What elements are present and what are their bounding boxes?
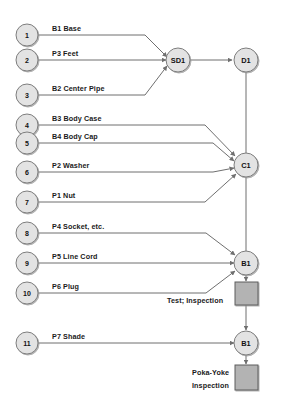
part-nodes: 1 2 3 4 5 6 7 xyxy=(16,24,38,354)
part-node-number: 6 xyxy=(25,169,29,176)
inspection-box-poka-yoke[interactable] xyxy=(235,365,258,390)
diagram-canvas: 1 2 3 4 5 6 7 xyxy=(0,0,281,403)
part-node-11[interactable]: 11 xyxy=(16,332,38,354)
part-node-1[interactable]: 1 xyxy=(16,24,38,46)
part-label-10: P6 Plug xyxy=(52,282,79,291)
inspection-box-test[interactable] xyxy=(235,282,258,305)
operation-node-b1-lower[interactable]: B1 xyxy=(234,331,258,355)
part-label-6: P2 Washer xyxy=(52,161,89,170)
connector-part5-to-c1 xyxy=(38,143,234,161)
part-label-3: B2 Center Pipe xyxy=(52,84,105,93)
inspection-label-poka-yoke-line2: Inspection xyxy=(192,381,229,390)
operation-node-label: D1 xyxy=(241,56,250,65)
part-node-number: 1 xyxy=(25,32,29,39)
part-node-number: 8 xyxy=(25,230,29,237)
operation-node-label: C1 xyxy=(241,161,250,170)
operation-node-label: SD1 xyxy=(171,56,185,65)
part-node-number: 10 xyxy=(23,290,31,297)
part-label-9: P5 Line Cord xyxy=(52,252,98,261)
part-label-1: B1 Base xyxy=(52,24,81,33)
part-node-8[interactable]: 8 xyxy=(16,222,38,244)
part-node-number: 7 xyxy=(25,199,29,206)
part-label-2: P3 Feet xyxy=(52,49,79,58)
part-node-number: 11 xyxy=(23,340,31,347)
inspection-label-test: Test; Inspection xyxy=(167,296,223,305)
operation-node-label: B1 xyxy=(241,259,250,268)
part-node-7[interactable]: 7 xyxy=(16,191,38,213)
part-node-3[interactable]: 3 xyxy=(16,84,38,106)
part-node-number: 9 xyxy=(25,260,29,267)
part-node-number: 4 xyxy=(25,122,29,129)
part-node-number: 2 xyxy=(25,57,29,64)
part-label-7: P1 Nut xyxy=(52,191,76,200)
assembly-flow-diagram: 1 2 3 4 5 6 7 xyxy=(0,0,281,403)
operation-node-sd1[interactable]: SD1 xyxy=(166,48,190,72)
part-node-9[interactable]: 9 xyxy=(16,252,38,274)
operation-node-label: B1 xyxy=(241,339,250,348)
part-label-5: B4 Body Cap xyxy=(52,132,98,141)
part-node-5[interactable]: 5 xyxy=(16,132,38,154)
operation-node-c1[interactable]: C1 xyxy=(234,153,258,177)
part-node-6[interactable]: 6 xyxy=(16,161,38,183)
part-node-10[interactable]: 10 xyxy=(16,282,38,304)
inspection-label-poka-yoke-line1: Poka-Yoke xyxy=(192,368,229,377)
operation-node-d1[interactable]: D1 xyxy=(234,48,258,72)
part-label-8: P4 Socket, etc. xyxy=(52,222,104,231)
part-node-2[interactable]: 2 xyxy=(16,49,38,71)
part-node-number: 5 xyxy=(25,140,29,147)
part-node-number: 3 xyxy=(25,92,29,99)
part-label-11: P7 Shade xyxy=(52,332,85,341)
operation-node-b1-upper[interactable]: B1 xyxy=(234,251,258,275)
part-label-4: B3 Body Case xyxy=(52,114,102,123)
